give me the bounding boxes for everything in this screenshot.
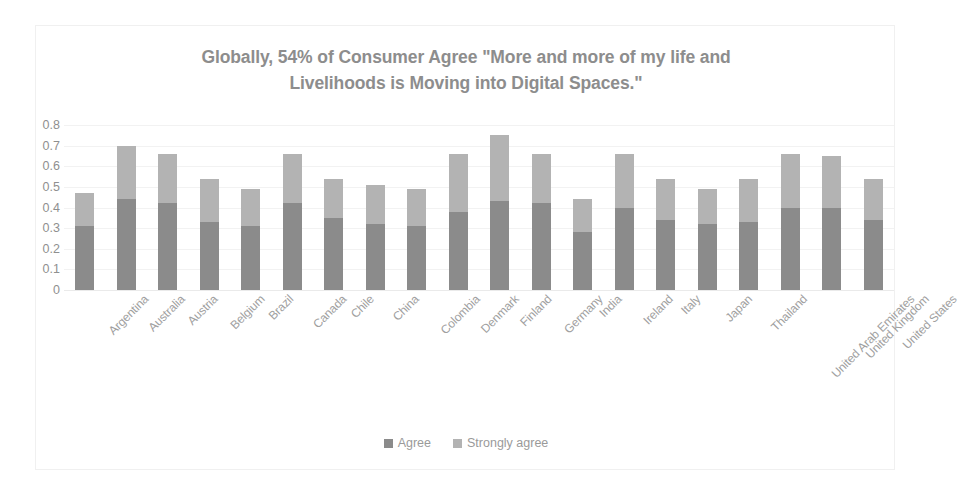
x-axis-tick-label: Canada	[310, 292, 349, 331]
bar-segment-strongly-agree[interactable]	[117, 146, 136, 200]
bar-segment-strongly-agree[interactable]	[324, 179, 343, 218]
x-axis-tick-label: Finland	[517, 292, 554, 329]
bar-segment-agree[interactable]	[241, 226, 260, 290]
legend-label: Strongly agree	[467, 436, 548, 450]
x-axis-tick-label: Italy	[678, 292, 703, 317]
bar-segment-strongly-agree[interactable]	[241, 189, 260, 226]
y-axis-tick-label: 0.3	[43, 221, 60, 235]
chart-container: Globally, 54% of Consumer Agree "More an…	[35, 25, 895, 470]
legend-label: Agree	[398, 436, 431, 450]
bar-slot	[438, 125, 480, 290]
x-axis-tick-label: Chile	[348, 292, 377, 321]
legend-entry[interactable]: Agree	[384, 436, 431, 450]
legend-entry[interactable]: Strongly agree	[453, 436, 548, 450]
bar-segment-agree[interactable]	[864, 220, 883, 290]
bar-stack[interactable]	[615, 154, 634, 290]
bar-segment-agree[interactable]	[158, 203, 177, 290]
bar-segment-agree[interactable]	[532, 203, 551, 290]
bar-stack[interactable]	[117, 146, 136, 290]
bar-slot	[770, 125, 812, 290]
bar-stack[interactable]	[573, 199, 592, 290]
chart-title-line-1: Globally, 54% of Consumer Agree "More an…	[91, 44, 841, 70]
x-axis-tick-label: China	[390, 292, 422, 324]
x-axis-tick-label: Colombia	[437, 292, 482, 337]
bar-segment-agree[interactable]	[117, 199, 136, 290]
bar-stack[interactable]	[864, 179, 883, 290]
bar-segment-strongly-agree[interactable]	[75, 193, 94, 226]
y-axis-tick-label: 0.8	[43, 118, 60, 132]
bar-segment-agree[interactable]	[449, 212, 468, 290]
bar-segment-agree[interactable]	[200, 222, 219, 290]
y-axis-tick-label: 0.2	[43, 242, 60, 256]
bar-segment-agree[interactable]	[615, 208, 634, 291]
bar-slot	[272, 125, 314, 290]
chart-title: Globally, 54% of Consumer Agree "More an…	[91, 44, 841, 97]
bar-stack[interactable]	[158, 154, 177, 290]
chart-title-line-2: Livelihoods is Moving into Digital Space…	[91, 70, 841, 96]
bar-stack[interactable]	[449, 154, 468, 290]
bar-stack[interactable]	[490, 135, 509, 290]
bar-slot	[645, 125, 687, 290]
bar-segment-strongly-agree[interactable]	[366, 185, 385, 224]
bar-segment-agree[interactable]	[490, 201, 509, 290]
bar-segment-agree[interactable]	[573, 232, 592, 290]
bar-stack[interactable]	[656, 179, 675, 290]
bar-segment-strongly-agree[interactable]	[573, 199, 592, 232]
bar-segment-strongly-agree[interactable]	[200, 179, 219, 222]
bar-segment-agree[interactable]	[324, 218, 343, 290]
bar-series-group	[64, 125, 894, 290]
bar-segment-agree[interactable]	[698, 224, 717, 290]
bar-segment-strongly-agree[interactable]	[615, 154, 634, 208]
bar-stack[interactable]	[324, 179, 343, 290]
bar-segment-strongly-agree[interactable]	[158, 154, 177, 204]
bar-stack[interactable]	[739, 179, 758, 290]
x-axis-tick-label: Australia	[146, 292, 188, 334]
bar-segment-agree[interactable]	[366, 224, 385, 290]
bar-slot	[811, 125, 853, 290]
bar-stack[interactable]	[75, 193, 94, 290]
bar-slot	[64, 125, 106, 290]
bar-segment-strongly-agree[interactable]	[532, 154, 551, 204]
y-axis-tick-label: 0.7	[43, 139, 60, 153]
bar-segment-strongly-agree[interactable]	[781, 154, 800, 208]
bar-segment-agree[interactable]	[656, 220, 675, 290]
bar-segment-agree[interactable]	[75, 226, 94, 290]
bar-stack[interactable]	[407, 189, 426, 290]
bar-stack[interactable]	[200, 179, 219, 290]
bar-stack[interactable]	[283, 154, 302, 290]
bar-segment-agree[interactable]	[822, 208, 841, 291]
bar-segment-strongly-agree[interactable]	[698, 189, 717, 224]
x-axis-tick-label: Thailand	[768, 292, 810, 334]
bar-segment-agree[interactable]	[407, 226, 426, 290]
bar-segment-strongly-agree[interactable]	[490, 135, 509, 201]
bar-segment-strongly-agree[interactable]	[822, 156, 841, 208]
bar-stack[interactable]	[698, 189, 717, 290]
x-axis: ArgentinaAustraliaAustriaBelgiumBrazilCa…	[64, 292, 894, 412]
bar-stack[interactable]	[241, 189, 260, 290]
bar-segment-strongly-agree[interactable]	[407, 189, 426, 226]
bar-segment-strongly-agree[interactable]	[283, 154, 302, 204]
x-axis-tick-label: Denmark	[478, 292, 522, 336]
bar-slot	[147, 125, 189, 290]
bar-segment-agree[interactable]	[283, 203, 302, 290]
bar-slot	[687, 125, 729, 290]
plot-area	[64, 125, 894, 290]
bar-slot	[604, 125, 646, 290]
bar-segment-strongly-agree[interactable]	[739, 179, 758, 222]
bar-segment-strongly-agree[interactable]	[864, 179, 883, 220]
bar-slot	[521, 125, 563, 290]
bar-stack[interactable]	[822, 156, 841, 290]
bar-segment-strongly-agree[interactable]	[656, 179, 675, 220]
x-axis-tick-label: Belgium	[228, 292, 268, 332]
bar-stack[interactable]	[366, 185, 385, 290]
bar-segment-agree[interactable]	[739, 222, 758, 290]
y-axis-tick-label: 0.6	[43, 159, 60, 173]
bar-slot	[853, 125, 895, 290]
bar-stack[interactable]	[781, 154, 800, 290]
x-axis-tick-label: Japan	[723, 292, 756, 325]
bar-segment-agree[interactable]	[781, 208, 800, 291]
bar-stack[interactable]	[532, 154, 551, 290]
bar-segment-strongly-agree[interactable]	[449, 154, 468, 212]
chart-legend: AgreeStrongly agree	[36, 436, 896, 450]
bar-slot	[230, 125, 272, 290]
